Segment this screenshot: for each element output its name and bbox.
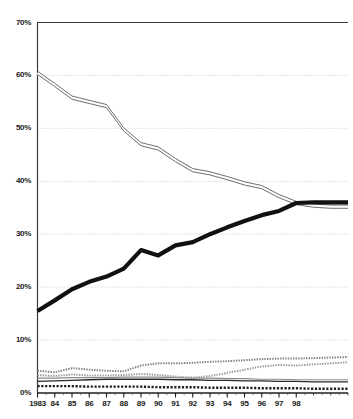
series-line-rising-series-0: [38, 202, 349, 310]
series-line-low-series-bottom-0: [38, 386, 349, 389]
x-tick-label-92: 92: [186, 399, 200, 408]
x-tick-label-87: 87: [100, 399, 114, 408]
x-tick-label-88: 88: [117, 399, 131, 408]
x-tick-label-91: 91: [169, 399, 183, 408]
y-tick-label-70: 70%: [1, 19, 31, 27]
series-declining-series: [38, 71, 349, 208]
x-tick-label-97: 97: [272, 399, 286, 408]
y-tick-label-20: 20%: [1, 283, 31, 291]
y-tick-label-0: 0%: [1, 389, 31, 397]
x-tick-label-94: 94: [220, 399, 234, 408]
y-tick-label-50: 50%: [1, 124, 31, 132]
series-line-declining-series-1: [38, 71, 349, 205]
x-tick-label-85: 85: [65, 399, 79, 408]
y-tick-label-60: 60%: [1, 71, 31, 79]
series-line-declining-series-2: [38, 74, 349, 208]
plot-area: [0, 0, 353, 419]
x-tick-label-90: 90: [151, 399, 165, 408]
y-tick-label-40: 40%: [1, 177, 31, 185]
series-rising-series: [38, 202, 349, 310]
x-tick-label-93: 93: [203, 399, 217, 408]
series-line-declining-series-0: [38, 73, 349, 207]
x-tick-label-98: 98: [289, 399, 303, 408]
y-tick-label-10: 10%: [1, 336, 31, 344]
x-tick-label-1983: 1983: [27, 399, 49, 408]
series-low-series-bottom: [38, 386, 349, 389]
line-chart: 70%60%50%40%30%20%10%0% 1983848586878889…: [0, 0, 353, 419]
x-tick-label-89: 89: [134, 399, 148, 408]
x-tick-label-95: 95: [238, 399, 252, 408]
gridlines: [38, 23, 349, 341]
axis-lines: [37, 23, 348, 394]
data-series-group: [38, 71, 349, 389]
x-tick-label-86: 86: [82, 399, 96, 408]
x-tick-label-84: 84: [48, 399, 62, 408]
x-tick-label-96: 96: [255, 399, 269, 408]
y-tick-label-30: 30%: [1, 230, 31, 238]
